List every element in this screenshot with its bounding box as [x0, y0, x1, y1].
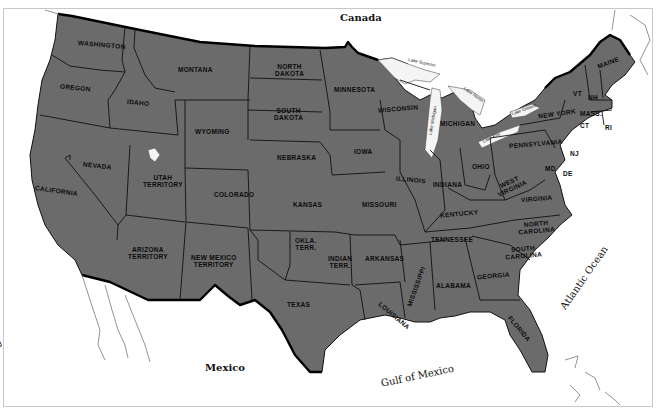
label-ohio: OHIO: [472, 163, 490, 170]
label-mexico: Mexico: [205, 362, 245, 373]
label-arizona-territory: ARIZONA TERRITORY: [128, 246, 168, 260]
baja-coast: [82, 275, 105, 360]
label-canada: Canada: [340, 12, 382, 23]
label-delaware: DE: [563, 170, 573, 177]
label-montana: MONTANA: [178, 66, 213, 73]
label-texas: TEXAS: [287, 301, 310, 308]
label-connecticut: CT: [580, 122, 589, 129]
label-new-mexico-territory: NEW MEXICO TERRITORY: [191, 254, 237, 268]
label-north-dakota: NORTH DAKOTA: [275, 63, 304, 77]
label-new-jersey: NJ: [570, 150, 579, 157]
label-utah-territory: UTAH TERRITORY: [143, 174, 183, 188]
label-indian-terr: INDIAN TERR.: [328, 255, 352, 269]
label-rhode-island: RI: [605, 124, 612, 131]
label-south-dakota: SOUTH DAKOTA: [274, 107, 303, 121]
label-alabama: ALABAMA: [436, 282, 471, 289]
label-kansas: KANSAS: [293, 201, 322, 208]
label-wyoming: WYOMING: [195, 128, 230, 135]
label-colorado: COLORADO: [214, 191, 254, 198]
label-massachusetts: MASS.: [580, 110, 602, 117]
label-indiana: INDIANA: [433, 181, 462, 188]
label-missouri: MISSOURI: [362, 201, 397, 208]
label-vermont: VT: [573, 90, 582, 97]
label-iowa: IOWA: [354, 148, 373, 155]
us-mainland: [30, 14, 635, 372]
label-new-hampshire: NH: [588, 94, 598, 101]
label-maryland: MD: [545, 165, 556, 172]
label-arkansas: ARKANSAS: [365, 255, 404, 262]
label-michigan: MICHIGAN: [440, 120, 475, 127]
label-tennessee: TENNESSEE: [431, 236, 473, 243]
label-okla-terr: OKLA. TERR.: [295, 237, 317, 251]
label-minnesota: MINNESOTA: [334, 86, 375, 93]
us-map-graphic: [0, 0, 657, 411]
label-nebraska: NEBRASKA: [277, 154, 316, 161]
